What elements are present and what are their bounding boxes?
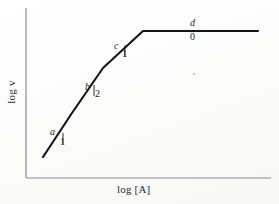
figure-log-v-vs-log-a: log v log [A] a 1 b 2 c 1 d 0: [0, 0, 279, 204]
scan-speck: [193, 73, 195, 75]
segment-slope-a: 1: [60, 136, 65, 147]
segment-label-d: d: [190, 17, 195, 28]
segment-label-a: a: [50, 126, 55, 137]
segment-label-b: b: [85, 81, 90, 92]
data-curve: [43, 31, 258, 157]
y-axis-label: log v: [5, 68, 17, 116]
plot-canvas: [0, 0, 279, 204]
segment-slope-c: 1: [122, 48, 127, 59]
segment-slope-b: 2: [95, 88, 100, 99]
x-axis-label: log [A]: [117, 183, 150, 195]
segment-slope-d: 0: [190, 31, 195, 42]
segment-label-c: c: [114, 40, 118, 51]
